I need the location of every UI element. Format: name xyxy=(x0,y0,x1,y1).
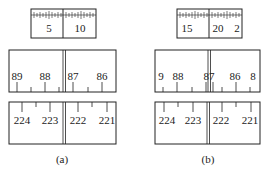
scale-label: 222 xyxy=(213,114,230,126)
panel-caption: (a) xyxy=(56,153,69,166)
scale-label: 88 xyxy=(173,70,185,82)
scale-label: 222 xyxy=(70,114,87,126)
micrometer-label: 15 xyxy=(182,22,194,34)
micrometer-window: 5 10 xyxy=(31,9,96,38)
scale-label: 221 xyxy=(99,114,116,126)
micrometer-label: 5 xyxy=(46,22,52,34)
vernier-reading-diagram: 5 10 89 88 87 86 xyxy=(0,0,270,174)
scale-label: 87 xyxy=(68,70,80,82)
scale-label: 86 xyxy=(230,70,242,82)
scale-label: 86 xyxy=(97,70,109,82)
micrometer-label: 10 xyxy=(75,22,87,34)
scale-label: 87 xyxy=(204,70,216,82)
upper-scale-window: 9 88 87 86 8 xyxy=(155,50,260,92)
panel-caption: (b) xyxy=(202,153,215,166)
lower-scale-window: 224 223 222 221 xyxy=(155,102,260,144)
lower-scale-window: 224 223 222 221 xyxy=(9,102,116,144)
scale-label: 221 xyxy=(242,114,259,126)
scale-label: 88 xyxy=(40,70,52,82)
scale-label: 89 xyxy=(12,70,24,82)
upper-scale-window: 89 88 87 86 xyxy=(9,50,116,92)
micrometer-window: 15 20 2 xyxy=(177,9,242,38)
scale-label: 224 xyxy=(14,114,31,126)
micrometer-label: 2 xyxy=(234,22,240,34)
scale-label: 224 xyxy=(159,114,176,126)
scale-label: 8 xyxy=(250,70,256,82)
micrometer-label: 20 xyxy=(213,22,225,34)
scale-label: 223 xyxy=(185,114,202,126)
scale-label: 223 xyxy=(42,114,59,126)
panel-b: 15 20 2 9 88 87 86 8 xyxy=(155,9,260,166)
panel-a: 5 10 89 88 87 86 xyxy=(9,9,116,166)
scale-label: 9 xyxy=(158,70,164,82)
